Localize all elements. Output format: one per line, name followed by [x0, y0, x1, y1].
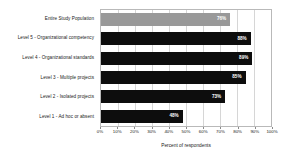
bar-value-label: 48% — [169, 114, 182, 119]
x-tick-label: 10% — [113, 130, 122, 134]
bar-row: 85% — [101, 68, 271, 87]
bar: 88% — [101, 32, 251, 45]
bar-row: 89% — [101, 49, 271, 68]
x-tick-label: 50% — [182, 130, 191, 134]
x-tick-label: 40% — [164, 130, 173, 134]
bar: 48% — [101, 110, 183, 123]
bar: 89% — [101, 52, 252, 65]
bar-value-label: 73% — [212, 95, 225, 100]
category-label: Entire Study Population — [0, 9, 97, 29]
bar: 76% — [101, 13, 230, 26]
bar-value-label: 85% — [232, 75, 245, 80]
category-axis-labels: Entire Study Population Level 5 - Organi… — [0, 9, 97, 127]
bar: 85% — [101, 71, 246, 84]
bar-value-label: 76% — [217, 17, 230, 22]
bar-row: 88% — [101, 29, 271, 48]
x-axis: 0%10%20%30%40%50%60%70%80%90%100% — [100, 127, 272, 139]
bar-value-label: 89% — [239, 56, 252, 61]
x-axis-title: Percent of respondents — [100, 144, 272, 149]
category-label: Level 1 - Ad hoc or absent — [0, 107, 97, 127]
bar-row: 73% — [101, 87, 271, 106]
bar-series: 76% 88% 89% 85% 73% — [101, 10, 271, 126]
bar-row: 76% — [101, 10, 271, 29]
bar-chart: Entire Study Population Level 5 - Organi… — [0, 0, 293, 159]
x-tick-label: 20% — [130, 130, 139, 134]
x-tick-label: 60% — [199, 130, 208, 134]
x-tick-label: 80% — [233, 130, 242, 134]
bar: 73% — [101, 90, 225, 103]
bar-value-label: 88% — [237, 37, 250, 42]
category-label: Level 2 - Isolated projects — [0, 88, 97, 108]
plot-area: 76% 88% 89% 85% 73% — [100, 9, 272, 127]
bar-row: 48% — [101, 107, 271, 126]
x-tick-label: 30% — [147, 130, 156, 134]
x-tick-label: 90% — [250, 130, 259, 134]
category-label: Level 3 - Multiple projects — [0, 68, 97, 88]
gridline — [271, 10, 272, 126]
x-tick-label: 0% — [97, 130, 103, 134]
x-tick-label: 70% — [216, 130, 225, 134]
x-tick-label: 100% — [266, 130, 277, 134]
category-label: Level 5 - Organizational competency — [0, 29, 97, 49]
category-label: Level 4 - Organizational standards — [0, 48, 97, 68]
